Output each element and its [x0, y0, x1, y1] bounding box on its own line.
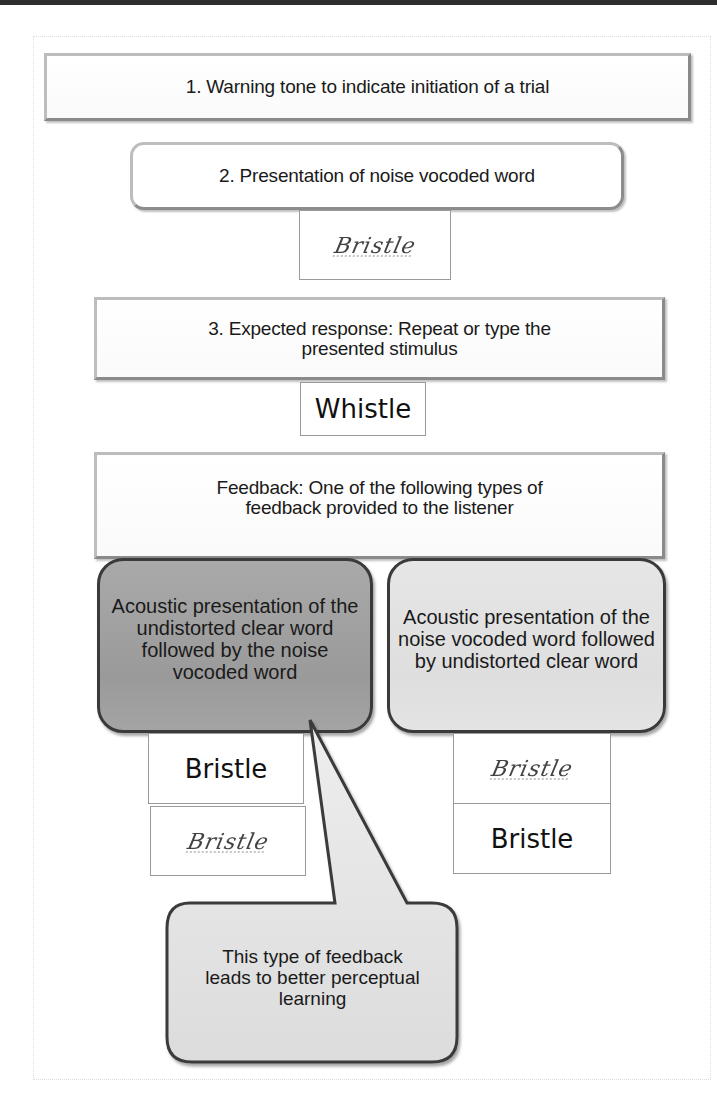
feedback-option-clear-then-vocoded: Acoustic presentation of the undistorted…: [97, 558, 373, 733]
right-seq-clear-word-box: Bristle: [453, 803, 611, 874]
vocoded-word-image: Bristle: [332, 233, 418, 258]
step-2-label: 2. Presentation of noise vocoded word: [219, 166, 535, 186]
step-1-label: 1. Warning tone to indicate initiation o…: [186, 77, 549, 97]
feedback-header-label: Feedback: One of the following types of …: [200, 478, 560, 518]
top-border-bar: [0, 0, 717, 5]
right-seq-vocoded-word: Bristle: [489, 756, 575, 781]
step-3-label: 3. Expected response: Repeat or type the…: [200, 319, 560, 359]
step-1-warning-tone-box: 1. Warning tone to indicate initiation o…: [44, 53, 691, 121]
step-3-response-word-box: Whistle: [300, 382, 426, 436]
feedback-option-2-label: Acoustic presentation of the noise vocod…: [398, 606, 655, 672]
step-2-presentation-box: 2. Presentation of noise vocoded word: [130, 142, 624, 210]
right-seq-clear-word: Bristle: [491, 824, 574, 854]
feedback-header-box: Feedback: One of the following types of …: [94, 452, 665, 559]
callout-label: This type of feedback leads to better pe…: [203, 946, 423, 1009]
feedback-option-vocoded-then-clear: Acoustic presentation of the noise vocod…: [387, 558, 666, 733]
response-word: Whistle: [315, 394, 411, 424]
step-3-expected-response-box: 3. Expected response: Repeat or type the…: [94, 297, 665, 380]
callout-box: This type of feedback leads to better pe…: [170, 905, 455, 1060]
step-2-vocoded-stimulus: Bristle: [299, 210, 451, 280]
right-seq-vocoded-word-box: Bristle: [453, 733, 611, 804]
feedback-option-1-label: Acoustic presentation of the undistorted…: [108, 595, 362, 683]
